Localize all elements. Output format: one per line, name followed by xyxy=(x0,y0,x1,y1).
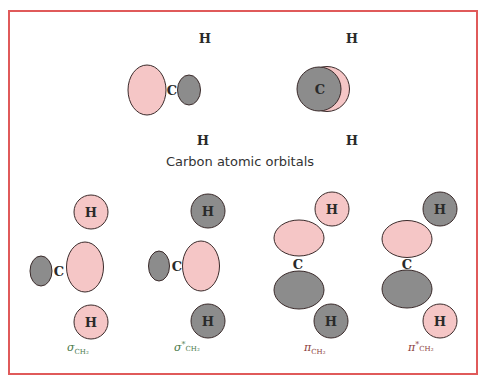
h-top-label: H xyxy=(326,202,338,217)
orbital-diagram: H C H H C H Carbon atomic orbitals H C H… xyxy=(0,0,485,382)
h-bottom-label: H xyxy=(346,133,358,148)
h-bottom-label: H xyxy=(202,314,214,329)
carbon-label: C xyxy=(315,82,325,97)
h-top-label: H xyxy=(202,204,214,219)
mo-pi: H C H πCH₂ xyxy=(274,192,349,356)
negative-lobe xyxy=(382,270,432,308)
mo-label: σCH₂ xyxy=(67,341,89,356)
h-top-label: H xyxy=(346,31,358,46)
negative-lobe xyxy=(149,251,170,281)
h-bottom-label: H xyxy=(325,314,337,329)
mo-label: π*CH₂ xyxy=(407,340,434,354)
carbon-label: C xyxy=(172,259,182,274)
mo-sigma: H C H σCH₂ xyxy=(30,195,108,356)
carbon-label: C xyxy=(54,264,64,279)
positive-lobe xyxy=(183,241,220,291)
h-bottom-label: H xyxy=(85,315,97,330)
negative-lobe xyxy=(274,271,324,309)
atomic-orbital-hybrid: H C H xyxy=(128,31,211,148)
h-bottom-label: H xyxy=(434,314,446,329)
positive-lobe xyxy=(382,221,432,258)
atomic-orbital-p: H C H xyxy=(297,31,358,148)
h-top-label: H xyxy=(85,205,97,220)
section-caption: Carbon atomic orbitals xyxy=(166,154,314,169)
mo-sigma-star: H C H σ*CH₂ xyxy=(149,194,226,354)
h-top-label: H xyxy=(434,202,446,217)
mo-pi-star: H C H π*CH₂ xyxy=(382,192,457,354)
negative-lobe xyxy=(178,75,201,105)
positive-lobe xyxy=(67,242,104,292)
positive-lobe xyxy=(274,220,324,256)
carbon-label: C xyxy=(293,257,303,272)
mo-label: πCH₂ xyxy=(303,341,326,356)
negative-lobe xyxy=(30,256,52,286)
h-bottom-label: H xyxy=(197,133,209,148)
positive-lobe xyxy=(128,65,166,115)
carbon-label: C xyxy=(167,83,177,98)
mo-label: σ*CH₂ xyxy=(174,340,200,354)
h-top-label: H xyxy=(199,31,211,46)
